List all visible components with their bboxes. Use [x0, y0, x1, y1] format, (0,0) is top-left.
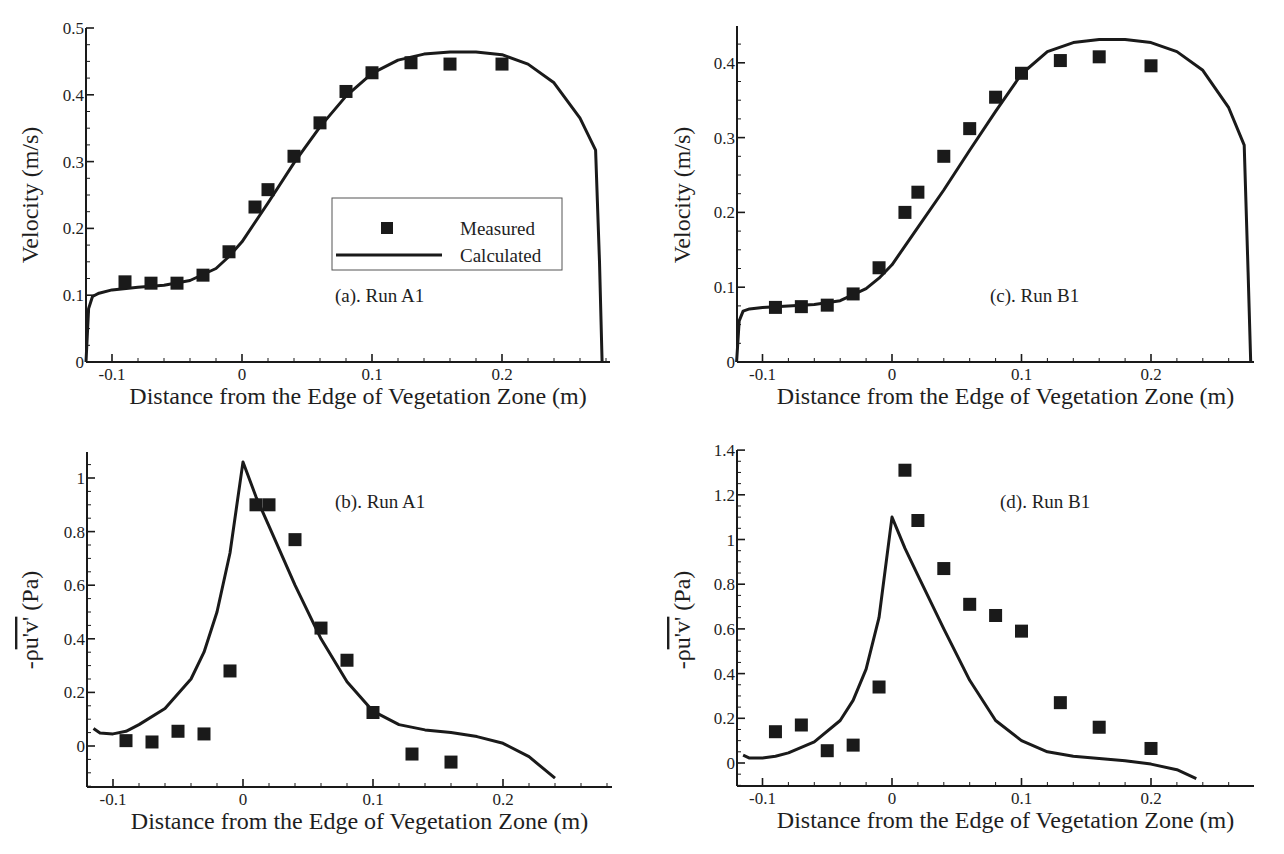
- calculated-line: [737, 40, 1251, 362]
- measured-marker: [198, 727, 211, 740]
- y-tick-label: 0: [727, 754, 736, 773]
- measured-marker: [911, 514, 924, 527]
- measured-marker: [197, 269, 210, 282]
- measured-marker: [224, 664, 237, 677]
- measured-marker: [340, 85, 353, 98]
- x-tick-label: -0.1: [99, 365, 126, 384]
- measured-marker: [171, 277, 184, 290]
- y-tick-label: 0.6: [714, 620, 735, 639]
- x-axis-title: Distance from the Edge of Vegetation Zon…: [777, 807, 1234, 833]
- x-tick-label: 0: [239, 790, 248, 809]
- y-tick-label: 0.4: [714, 665, 736, 684]
- y-tick-label: 0.2: [64, 683, 85, 702]
- measured-marker: [1145, 59, 1158, 72]
- calculated-line: [743, 517, 1196, 779]
- measured-marker: [795, 719, 808, 732]
- measured-marker: [250, 498, 263, 511]
- x-axis-title: Distance from the Edge of Vegetation Zon…: [777, 383, 1234, 409]
- measured-marker: [146, 735, 159, 748]
- panel-label: (a). Run A1: [335, 285, 424, 307]
- chart-panel-b: -0.100.10.200.20.40.60.81Distance from t…: [17, 452, 612, 834]
- legend: Measured Calculated: [332, 198, 562, 270]
- measured-marker: [821, 744, 834, 757]
- y-tick-label: 1: [77, 469, 86, 488]
- x-tick-label: 0.1: [1011, 789, 1032, 808]
- y-tick-label: 0: [727, 353, 736, 372]
- x-tick-label: 0: [888, 365, 897, 384]
- x-axis-title: Distance from the Edge of Vegetation Zon…: [131, 808, 588, 834]
- panel-label: (c). Run B1: [990, 285, 1079, 307]
- measured-marker: [263, 498, 276, 511]
- y-tick-label: 0.3: [63, 153, 84, 172]
- measured-marker: [1015, 67, 1028, 80]
- measured-marker: [496, 58, 509, 71]
- x-tick-label: 0: [238, 365, 247, 384]
- measured-marker: [937, 562, 950, 575]
- x-tick-label: 0.2: [492, 790, 513, 809]
- measured-marker: [769, 301, 782, 314]
- x-tick-label: 0.1: [1011, 365, 1032, 384]
- x-tick-label: 0.2: [1140, 789, 1161, 808]
- measured-marker: [1054, 54, 1067, 67]
- measured-marker: [249, 201, 262, 214]
- measured-marker: [898, 206, 911, 219]
- x-tick-label: 0.2: [1140, 365, 1161, 384]
- measured-marker: [314, 116, 327, 129]
- measured-marker: [445, 756, 458, 769]
- y-tick-label: 0.2: [714, 709, 735, 728]
- measured-marker: [406, 748, 419, 761]
- measured-marker: [821, 299, 834, 312]
- measured-marker: [847, 287, 860, 300]
- x-tick-label: 0.1: [361, 365, 382, 384]
- y-tick-label: 1: [727, 531, 736, 550]
- y-tick-label: 0.1: [63, 286, 84, 305]
- legend-measured-marker-icon: [381, 222, 393, 234]
- y-tick-label: 0.2: [63, 219, 84, 238]
- y-tick-label: 0.2: [714, 203, 735, 222]
- measured-marker: [911, 186, 924, 199]
- measured-marker: [1145, 742, 1158, 755]
- calculated-line: [94, 462, 556, 778]
- measured-marker: [963, 598, 976, 611]
- measured-marker: [262, 183, 275, 196]
- measured-marker: [145, 277, 158, 290]
- measured-marker: [873, 681, 886, 694]
- legend-calculated-label: Calculated: [460, 245, 542, 266]
- measured-marker: [963, 122, 976, 135]
- x-tick-label: 0: [888, 789, 897, 808]
- measured-marker: [1054, 696, 1067, 709]
- measured-marker: [289, 533, 302, 546]
- measured-marker: [989, 609, 1002, 622]
- x-axis-title: Distance from the Edge of Vegetation Zon…: [129, 383, 586, 409]
- y-tick-label: 0.5: [63, 19, 84, 38]
- measured-marker: [119, 275, 132, 288]
- measured-marker: [898, 464, 911, 477]
- x-tick-label: -0.1: [749, 365, 776, 384]
- measured-marker: [937, 150, 950, 163]
- measured-marker: [847, 739, 860, 752]
- y-tick-label: 1.4: [714, 441, 736, 460]
- measured-marker: [366, 66, 379, 79]
- chart-canvas: -0.100.10.200.10.20.30.40.5Distance from…: [0, 0, 1284, 854]
- measured-marker: [795, 300, 808, 313]
- chart-panel-c: -0.100.10.200.10.20.30.4Distance from th…: [669, 26, 1254, 409]
- measured-marker: [120, 734, 133, 747]
- figure-container: -0.100.10.200.10.20.30.40.5Distance from…: [0, 0, 1284, 854]
- y-axis-title: -ρu'v' (Pa): [669, 571, 695, 670]
- y-tick-label: 0.8: [64, 523, 85, 542]
- y-tick-label: 0.8: [714, 575, 735, 594]
- measured-marker: [873, 261, 886, 274]
- y-axis-title: Velocity (m/s): [17, 127, 43, 264]
- y-tick-label: 0.6: [64, 576, 85, 595]
- panel-label: (b). Run A1: [335, 491, 425, 513]
- y-axis-title: Velocity (m/s): [669, 127, 695, 264]
- measured-marker: [405, 56, 418, 69]
- y-tick-label: 0.3: [714, 129, 735, 148]
- panel-label: (d). Run B1: [1000, 491, 1090, 513]
- y-tick-label: 0.4: [714, 54, 736, 73]
- y-tick-label: 0.1: [714, 278, 735, 297]
- x-tick-label: 0.2: [491, 365, 512, 384]
- measured-marker: [367, 706, 380, 719]
- measured-marker: [223, 245, 236, 258]
- measured-marker: [172, 725, 185, 738]
